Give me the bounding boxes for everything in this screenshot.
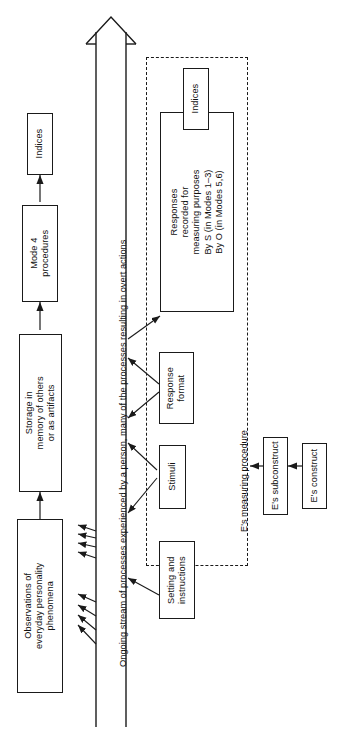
node-indices-measuring-label: Indices: [190, 84, 201, 114]
node-indices-top-label: Indices: [34, 129, 45, 159]
node-observations: Observations of everyday personality phe…: [17, 519, 63, 693]
node-setting-and-instructions: Setting and instructions: [159, 541, 195, 619]
node-indices-top: Indices: [27, 113, 53, 175]
node-storage: Storage in memory of others or as artifa…: [19, 334, 62, 492]
node-indices-measuring: Indices: [183, 68, 209, 130]
measuring-procedure-caption: E's measuring procedure: [239, 430, 250, 532]
node-subconstruct-label: E's subconstruct: [270, 442, 281, 511]
node-mode4-procedures-label: Mode 4 procedures: [29, 230, 51, 277]
stream-caption: Ongoing stream of processes experienced …: [118, 240, 129, 667]
node-subconstruct: E's subconstruct: [263, 437, 288, 515]
node-stimuli-label: Stimuli: [167, 463, 178, 491]
node-storage-label: Storage in memory of others or as artifa…: [24, 376, 58, 449]
node-responses-recorded: Responses recorded for measuring purpose…: [160, 112, 234, 312]
diagram-canvas: Ongoing stream of processes experienced …: [0, 0, 342, 743]
node-responses-recorded-label: Responses recorded for measuring purpose…: [169, 169, 225, 254]
node-construct: E's construct: [302, 443, 327, 509]
node-response-format: Response format: [159, 352, 194, 424]
node-observations-label: Observations of everyday personality phe…: [23, 563, 57, 649]
node-response-format-label: Response format: [165, 367, 187, 409]
node-setting-and-instructions-label: Setting and instructions: [166, 556, 188, 604]
node-mode4-procedures: Mode 4 procedures: [22, 205, 58, 302]
node-construct-label: E's construct: [309, 449, 320, 503]
node-stimuli: Stimuli: [159, 445, 186, 509]
